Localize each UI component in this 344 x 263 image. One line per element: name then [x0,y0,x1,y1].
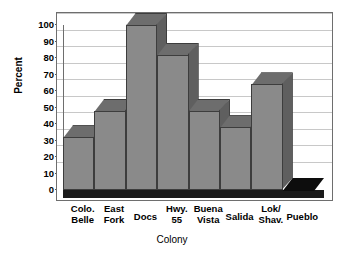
x-tick-label: Pueblo [274,211,330,222]
x-axis-title: Colony [0,234,344,245]
x-axis-tick-labels: Colo. BelleEast ForkDocsHwy. 55Buena Vis… [0,0,344,263]
bar-chart: Percent 0102030405060708090100 Colo. Bel… [0,0,344,263]
